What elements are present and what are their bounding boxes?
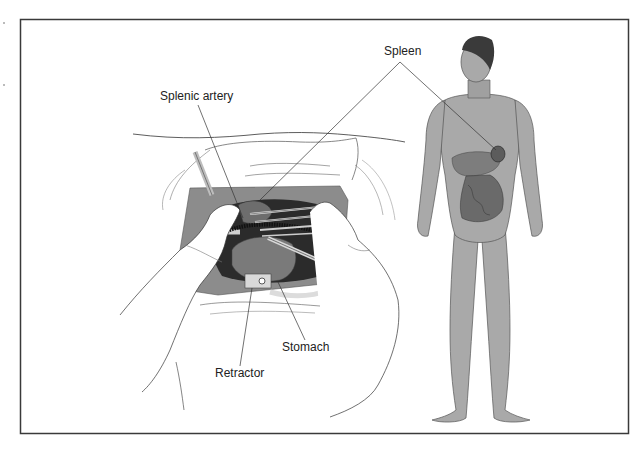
drape-fold — [250, 163, 330, 166]
leader-spleen-surgical — [260, 62, 400, 200]
label-splenic-artery: Splenic artery — [160, 89, 233, 103]
patient-contour — [133, 133, 405, 142]
spleen-figure — [491, 146, 505, 162]
left-leg — [432, 226, 478, 422]
leader-stomach — [278, 282, 305, 340]
drape-fold — [355, 165, 383, 215]
illustration — [0, 0, 641, 451]
right-leg — [482, 226, 530, 422]
neck — [468, 80, 490, 98]
human-figure — [417, 36, 542, 422]
retractor-clamp — [245, 274, 271, 288]
diagram-stage: Spleen Splenic artery Stomach Retractor — [0, 0, 641, 451]
left-arm — [120, 205, 240, 392]
right-arm-figure — [417, 100, 445, 236]
label-retractor: Retractor — [215, 366, 264, 380]
intestines — [460, 175, 503, 222]
right-arm — [310, 202, 399, 417]
label-spleen: Spleen — [384, 44, 421, 58]
left-arm-figure — [515, 100, 543, 236]
retractor-screw — [259, 278, 265, 284]
drape-fold — [245, 173, 340, 176]
drape-fold — [362, 160, 395, 220]
label-stomach: Stomach — [282, 340, 329, 354]
leader-retractor — [240, 288, 252, 366]
